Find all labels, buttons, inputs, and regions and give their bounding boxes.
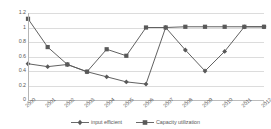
data-point-marker: [124, 79, 129, 84]
y-axis-tick-label: 0.2: [2, 83, 26, 88]
y-axis-tick-label: 0.6: [2, 54, 26, 59]
y-axis-tick-label: 0: [2, 97, 26, 102]
legend-marker-square-icon: [136, 119, 154, 126]
data-point-marker: [45, 64, 50, 69]
data-point-marker: [46, 45, 50, 49]
legend-item-input-efficient[interactable]: input efficient: [71, 119, 122, 126]
data-point-marker: [85, 70, 89, 74]
y-axis-labels: 00.20.40.60.811.2: [0, 0, 26, 129]
data-point-marker: [124, 54, 128, 58]
series-1: [26, 24, 267, 86]
data-point-marker: [223, 25, 227, 29]
y-axis-tick-label: 0.8: [2, 39, 26, 44]
legend-label: Capacity utilization: [156, 120, 200, 125]
data-point-marker: [144, 25, 148, 29]
data-point-marker: [183, 25, 187, 29]
series-line: [28, 27, 264, 84]
data-point-marker: [104, 74, 109, 79]
y-axis-tick-label: 0.4: [2, 68, 26, 73]
data-point-marker: [262, 25, 266, 29]
plot-area: [28, 13, 264, 100]
data-point-marker: [65, 62, 69, 66]
data-point-marker: [242, 25, 246, 29]
series-layer: [28, 13, 264, 100]
data-point-marker: [105, 47, 109, 51]
line-chart: 00.20.40.60.811.2 2000200120022003200420…: [0, 0, 271, 129]
legend-item-capacity-utilization[interactable]: Capacity utilization: [136, 119, 200, 126]
data-point-marker: [164, 25, 168, 29]
data-point-marker: [203, 25, 207, 29]
chart-legend: input efficient Capacity utilization: [0, 116, 271, 129]
y-axis-line: [28, 13, 29, 101]
y-axis-tick-label: 1.2: [2, 10, 26, 15]
x-axis-tick-label: 2000: [25, 97, 37, 109]
data-point-marker: [144, 82, 149, 87]
legend-marker-diamond-icon: [71, 119, 89, 126]
y-axis-tick-label: 1: [2, 25, 26, 30]
x-axis-labels: 2000200120022003200420052006200720082009…: [28, 101, 264, 117]
legend-label: input efficient: [91, 120, 122, 125]
